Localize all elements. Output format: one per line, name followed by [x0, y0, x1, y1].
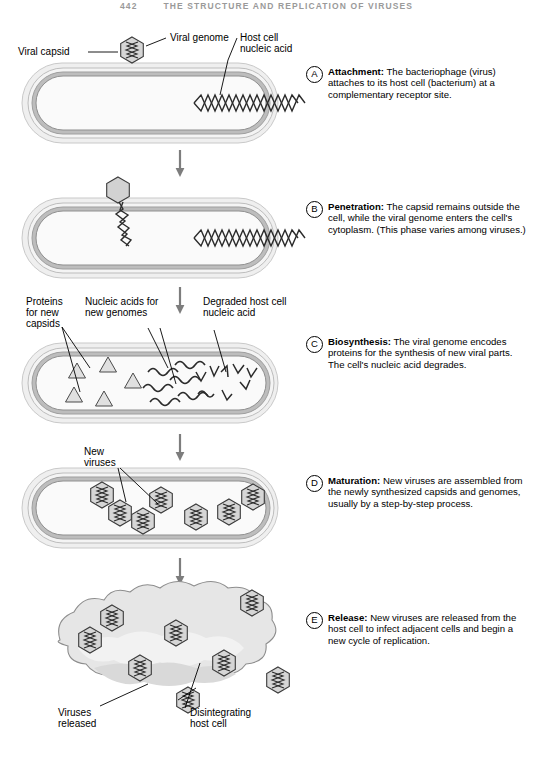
label-viral-capsid: Viral capsid: [18, 46, 70, 57]
stage-b-text: Penetration: The capsid remains outside …: [328, 201, 528, 235]
label-viruses-released-line2: released: [58, 718, 96, 729]
label-host-nucleic-acid-line1: Host cell: [240, 32, 278, 43]
arrow-b-to-c: [176, 287, 185, 314]
stage-a-letter: A: [306, 66, 323, 83]
label-degraded-line2: nucleic acid: [203, 307, 255, 318]
stage-d: D Maturation: New viruses are assembled …: [306, 475, 528, 509]
stage-c: C Biosynthesis: The viral genome encodes…: [306, 336, 528, 370]
label-new-viruses-line1: New: [84, 446, 104, 457]
figure-artwork: [0, 0, 533, 778]
panel-e-illustration: [58, 581, 289, 713]
label-degraded-line1: Degraded host cell: [203, 296, 286, 307]
panel-b-illustration: [22, 177, 305, 278]
label-disintegrating-line1: Disintegrating: [190, 707, 251, 718]
label-nucleic-acids-line2: new genomes: [85, 307, 147, 318]
label-nucleic-acids-line1: Nucleic acids for: [85, 296, 158, 307]
label-proteins-line3: capsids: [26, 318, 60, 329]
label-viral-genome: Viral genome: [170, 32, 229, 43]
stage-e-letter: E: [306, 612, 323, 629]
panel-c-illustration: [22, 327, 278, 423]
figure-page: 442THE STRUCTURE AND REPLICATION OF VIRU…: [0, 0, 533, 778]
stage-c-letter: C: [306, 336, 323, 353]
arrow-a-to-b: [176, 150, 185, 177]
stage-c-text: Biosynthesis: The viral genome encodes p…: [328, 336, 528, 370]
stage-e: E Release: New viruses are released from…: [306, 612, 528, 646]
panel-d-illustration: [22, 468, 278, 548]
stage-a: A Attachment: The bacteriophage (virus) …: [306, 66, 528, 100]
stage-d-letter: D: [306, 475, 323, 492]
stage-e-term: Release:: [328, 612, 367, 623]
stage-b-letter: B: [306, 201, 323, 218]
stage-d-term: Maturation:: [328, 475, 380, 486]
stage-c-term: Biosynthesis:: [328, 336, 391, 347]
label-disintegrating-line2: host cell: [190, 718, 227, 729]
label-proteins-line2: for new: [26, 307, 59, 318]
label-host-nucleic-acid-line2: nucleic acid: [240, 43, 292, 54]
stage-a-term: Attachment:: [328, 66, 384, 77]
label-viruses-released-line1: Viruses: [58, 707, 91, 718]
stage-a-text: Attachment: The bacteriophage (virus) at…: [328, 66, 528, 100]
stage-b-term: Penetration:: [328, 201, 384, 212]
stage-d-text: Maturation: New viruses are assembled fr…: [328, 475, 528, 509]
label-new-viruses-line2: viruses: [84, 457, 116, 468]
label-proteins-line1: Proteins: [26, 296, 63, 307]
arrow-c-to-d: [176, 434, 185, 461]
stage-b: B Penetration: The capsid remains outsid…: [306, 201, 528, 235]
stage-e-text: Release: New viruses are released from t…: [328, 612, 528, 646]
